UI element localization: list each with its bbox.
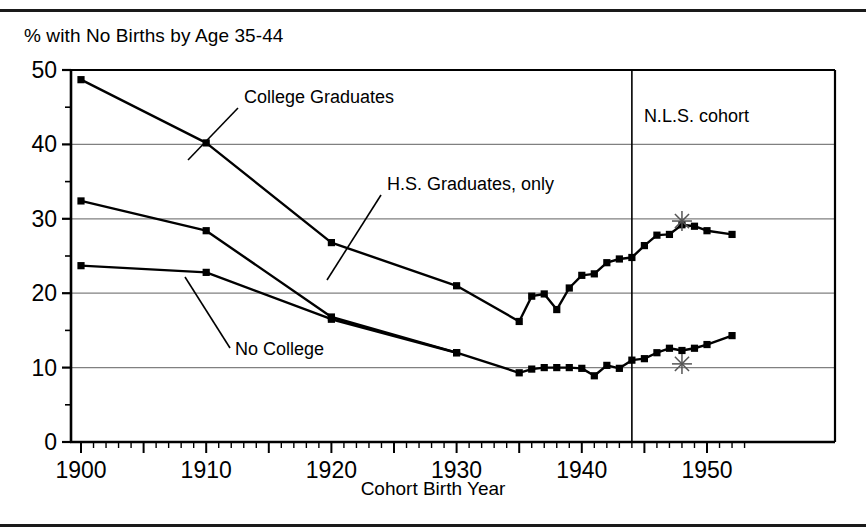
data-point-marker [628, 357, 635, 364]
x-tick-label-1930: 1930 [431, 457, 482, 483]
data-point-marker [328, 316, 335, 323]
nls-cohort-label: N.L.S. cohort [644, 106, 749, 126]
data-point-marker [641, 355, 648, 362]
series-line [81, 201, 457, 353]
data-point-marker [553, 364, 560, 371]
no-college-label: No College [235, 339, 324, 359]
data-point-marker [578, 272, 585, 279]
data-point-marker [666, 345, 673, 352]
data-point-marker [328, 239, 335, 246]
data-point-marker [541, 290, 548, 297]
asterisk-college [672, 211, 692, 231]
data-point-marker [566, 284, 573, 291]
data-point-marker [591, 270, 598, 277]
series-college-graduates [77, 76, 735, 325]
data-point-marker [628, 254, 635, 261]
data-point-marker [541, 364, 548, 371]
data-point-marker [728, 332, 735, 339]
data-point-marker [591, 372, 598, 379]
y-tick-label-10: 10 [31, 355, 57, 381]
data-point-marker [653, 232, 660, 239]
series-no-college [77, 262, 735, 379]
x-tick-label-1900: 1900 [55, 457, 106, 483]
x-tick-label-1920: 1920 [306, 457, 357, 483]
data-point-marker [77, 76, 84, 83]
data-point-marker [453, 349, 460, 356]
data-point-marker [528, 365, 535, 372]
data-point-marker [641, 242, 648, 249]
data-point-marker [77, 197, 84, 204]
chart-canvas: 01020304050190019101920193019401950Colle… [0, 0, 866, 532]
data-point-marker [616, 365, 623, 372]
data-point-marker [666, 231, 673, 238]
data-point-marker [703, 227, 710, 234]
y-tick-label-20: 20 [31, 280, 57, 306]
data-point-marker [566, 364, 573, 371]
data-point-marker [691, 345, 698, 352]
data-point-marker [203, 269, 210, 276]
data-point-marker [516, 318, 523, 325]
data-point-marker [616, 255, 623, 262]
data-point-marker [678, 347, 685, 354]
data-point-marker [653, 349, 660, 356]
series-h-s-graduates-only [77, 197, 460, 356]
y-tick-label-0: 0 [44, 429, 57, 455]
data-point-marker [691, 223, 698, 230]
data-point-marker [553, 306, 560, 313]
y-tick-label-40: 40 [31, 131, 57, 157]
data-point-marker [203, 227, 210, 234]
y-tick-label-50: 50 [31, 57, 57, 83]
data-point-marker [703, 341, 710, 348]
data-point-marker [77, 262, 84, 269]
college-graduates-leader-line [188, 108, 238, 160]
college-graduates-label: College Graduates [244, 87, 394, 107]
figure-page: % with No Births by Age 35-44 Cohort Bir… [0, 0, 866, 532]
data-point-marker [728, 231, 735, 238]
y-tick-label-30: 30 [31, 206, 57, 232]
data-point-marker [453, 282, 460, 289]
data-point-marker [603, 362, 610, 369]
series-line [81, 80, 732, 322]
asterisk-no-college [672, 354, 692, 374]
hs-graduates-leader-line [327, 195, 381, 280]
hs-graduates-label: H.S. Graduates, only [387, 174, 554, 194]
no-college-leader-line [185, 277, 230, 348]
data-point-marker [578, 365, 585, 372]
data-point-marker [516, 369, 523, 376]
x-tick-label-1940: 1940 [556, 457, 607, 483]
data-point-marker [603, 259, 610, 266]
x-tick-label-1910: 1910 [181, 457, 232, 483]
x-tick-label-1950: 1950 [681, 457, 732, 483]
data-point-marker [528, 293, 535, 300]
